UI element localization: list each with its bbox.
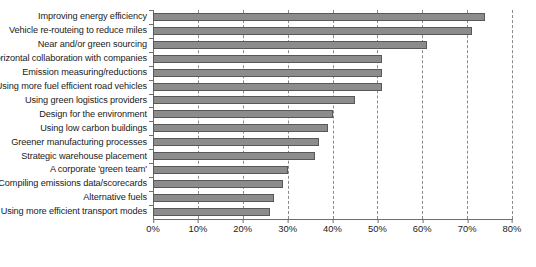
category-label: Compiling emissions data/scorecards — [0, 179, 147, 188]
x-tick-label: 40% — [323, 223, 342, 234]
category-label: Near and/or green sourcing — [38, 40, 147, 49]
bar-row: Using low carbon buildings — [153, 121, 512, 135]
x-tick-label: 20% — [233, 223, 252, 234]
bar — [153, 41, 427, 49]
x-tick-label: 60% — [413, 223, 432, 234]
x-tick-mark — [332, 219, 333, 223]
y-axis-tick — [149, 177, 153, 178]
category-label: Horizontal collaboration with companies — [0, 54, 147, 63]
y-axis-tick — [149, 135, 153, 136]
x-tick-mark — [198, 219, 199, 223]
bar-row: Vehicle re-routeing to reduce miles — [153, 24, 512, 38]
bar-row: Strategic warehouse placement — [153, 149, 512, 163]
bar — [153, 152, 315, 160]
x-tick-mark — [512, 219, 513, 223]
bar — [153, 124, 328, 132]
category-label: Alternative fuels — [83, 193, 147, 202]
x-tick-label: 50% — [368, 223, 387, 234]
y-axis-tick — [149, 80, 153, 81]
x-tick-mark — [467, 219, 468, 223]
bar — [153, 208, 270, 216]
bar — [153, 69, 382, 77]
x-tick-mark — [377, 219, 378, 223]
x-tick-label: 0% — [146, 223, 160, 234]
bar — [153, 166, 288, 174]
y-axis-tick — [149, 66, 153, 67]
bar — [153, 55, 382, 63]
bar-row: Near and/or green sourcing — [153, 38, 512, 52]
bar-row: Emission measuring/reductions — [153, 66, 512, 80]
x-axis-tick-labels: 0%10%20%30%40%50%60%70%80% — [153, 223, 513, 239]
x-tick-label: 10% — [188, 223, 207, 234]
bar-row: Improving energy efficiency — [153, 10, 512, 24]
y-axis-tick — [149, 191, 153, 192]
x-tick-mark — [422, 219, 423, 223]
y-axis-tick — [149, 38, 153, 39]
y-axis-tick — [149, 107, 153, 108]
bar — [153, 110, 333, 118]
category-label: Using more efficient transport modes — [1, 207, 147, 216]
y-axis-tick — [149, 205, 153, 206]
bar — [153, 13, 485, 21]
x-tick-mark — [288, 219, 289, 223]
gridline-80% — [512, 10, 513, 219]
category-label: A corporate 'green team' — [50, 165, 147, 174]
bar-rows: Improving energy efficiencyVehicle re-ro… — [153, 10, 512, 219]
x-tick-mark — [153, 219, 154, 223]
bar — [153, 138, 319, 146]
bar-row: Using green logistics providers — [153, 94, 512, 108]
y-axis-tick — [149, 163, 153, 164]
bar-row: Greener manufacturing processes — [153, 135, 512, 149]
bar-row: Using more efficient transport modes — [153, 205, 512, 219]
bar-row: A corporate 'green team' — [153, 163, 512, 177]
category-label: Design for the environment — [39, 110, 147, 119]
y-axis-tick — [149, 24, 153, 25]
y-axis-tick — [149, 52, 153, 53]
category-label: Using low carbon buildings — [40, 124, 147, 133]
x-tick-label: 80% — [503, 223, 522, 234]
category-label: Strategic warehouse placement — [21, 152, 147, 161]
bar-row: Using more fuel efficient road vehicles — [153, 80, 512, 94]
bar-row: Horizontal collaboration with companies — [153, 52, 512, 66]
bar — [153, 83, 382, 91]
y-axis-tick — [149, 149, 153, 150]
category-label: Using green logistics providers — [25, 96, 147, 105]
category-label: Vehicle re-routeing to reduce miles — [9, 26, 147, 35]
y-axis-tick — [149, 121, 153, 122]
y-axis-tick — [149, 94, 153, 95]
category-label: Improving energy efficiency — [38, 12, 147, 21]
x-tick-mark — [243, 219, 244, 223]
category-label: Greener manufacturing processes — [11, 138, 147, 147]
bar-chart: Improving energy efficiencyVehicle re-ro… — [0, 0, 536, 267]
category-label: Emission measuring/reductions — [22, 68, 147, 77]
bar — [153, 27, 472, 35]
y-axis-tick — [149, 10, 153, 11]
bar — [153, 180, 283, 188]
bar-row: Design for the environment — [153, 107, 512, 121]
x-tick-label: 70% — [458, 223, 477, 234]
bar-row: Compiling emissions data/scorecards — [153, 177, 512, 191]
plot-area: Improving energy efficiencyVehicle re-ro… — [153, 10, 512, 219]
bar — [153, 96, 355, 104]
bar-row: Alternative fuels — [153, 191, 512, 205]
x-tick-label: 30% — [278, 223, 297, 234]
bar — [153, 194, 274, 202]
category-label: Using more fuel efficient road vehicles — [0, 82, 147, 91]
